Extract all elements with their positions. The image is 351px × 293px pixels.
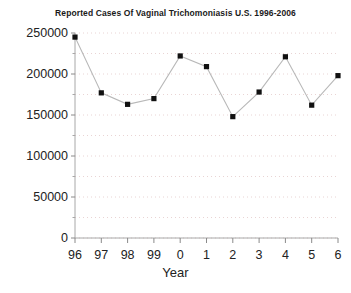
- y-axis-tick-labels: 050000100000150000200000250000: [4, 0, 68, 293]
- x-tick-label: 3: [256, 248, 263, 262]
- x-tick-label: 6: [335, 248, 342, 262]
- data-point-marker: [72, 35, 77, 40]
- x-tick-label: 1: [203, 248, 210, 262]
- y-tick-label: 100000: [6, 149, 68, 163]
- y-tick-label: 50000: [6, 190, 68, 204]
- y-tick-label: 0: [6, 231, 68, 245]
- data-point-marker: [125, 102, 130, 107]
- x-tick-label: 96: [68, 248, 82, 262]
- y-tick-label: 150000: [6, 108, 68, 122]
- minor-gridlines: [75, 33, 338, 238]
- data-point-marker: [335, 73, 340, 78]
- x-tick-label: 5: [308, 248, 315, 262]
- data-point-marker: [257, 89, 262, 94]
- data-point-marker: [283, 54, 288, 59]
- series-markers: [72, 35, 340, 120]
- data-point-marker: [178, 53, 183, 58]
- y-axis-ticks: [71, 33, 75, 238]
- x-axis-ticks: [75, 238, 338, 243]
- data-point-marker: [309, 103, 314, 108]
- x-tick-label: 98: [121, 248, 135, 262]
- data-point-marker: [99, 90, 104, 95]
- x-tick-label: 97: [94, 248, 108, 262]
- x-axis-title: Year: [0, 265, 351, 280]
- x-tick-label: 99: [147, 248, 161, 262]
- chart-container: Reported Cases Of Vaginal Trichomoniasis…: [0, 0, 351, 293]
- x-tick-label: 0: [177, 248, 184, 262]
- y-tick-label: 250000: [6, 26, 68, 40]
- x-tick-label: 4: [282, 248, 289, 262]
- data-point-marker: [230, 114, 235, 119]
- x-tick-label: 2: [229, 248, 236, 262]
- series-line: [75, 37, 338, 117]
- data-point-marker: [204, 64, 209, 69]
- data-point-marker: [151, 96, 156, 101]
- y-tick-label: 200000: [6, 67, 68, 81]
